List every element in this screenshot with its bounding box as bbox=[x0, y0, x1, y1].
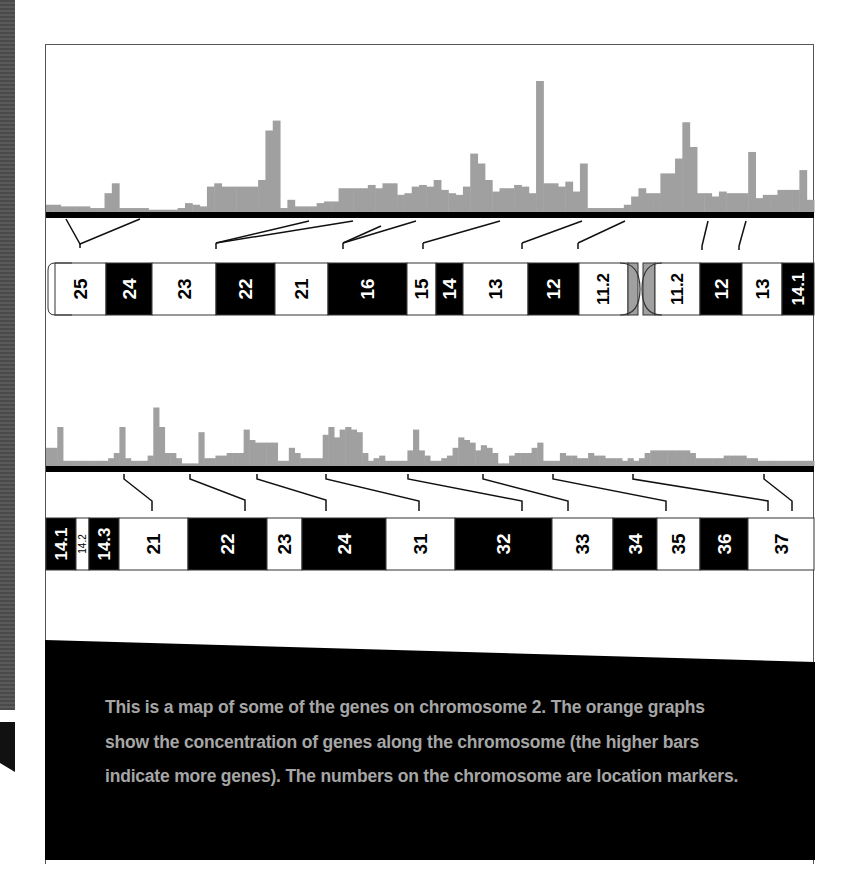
chromosome-band: 36 bbox=[700, 518, 748, 570]
histogram-bar bbox=[486, 448, 492, 466]
histogram-bar bbox=[594, 456, 600, 466]
histogram-bar bbox=[238, 453, 244, 466]
band-label: 14.3 bbox=[95, 527, 114, 560]
histogram-bar bbox=[551, 183, 559, 213]
band-connector-line bbox=[739, 221, 746, 246]
histogram-bar bbox=[807, 200, 815, 213]
chromosome-band: 31 bbox=[386, 518, 455, 570]
chromosome-band: 15 bbox=[407, 263, 436, 315]
histogram-bar bbox=[361, 188, 369, 213]
histogram-bar bbox=[726, 193, 734, 213]
histogram-bar bbox=[193, 463, 199, 466]
band-connector-line bbox=[343, 221, 416, 243]
histogram-bar bbox=[345, 427, 351, 466]
histogram-bar bbox=[515, 453, 521, 466]
chromosome-band: 21 bbox=[275, 263, 328, 315]
histogram-bar bbox=[514, 185, 522, 213]
band-connector-lines-bottom bbox=[124, 474, 792, 511]
histogram-bar bbox=[682, 122, 690, 213]
histogram-bar bbox=[185, 203, 193, 213]
histogram-bar bbox=[362, 453, 368, 466]
band-connector-line bbox=[216, 221, 353, 243]
band-label: 23 bbox=[174, 278, 195, 299]
chromosome-band: 33 bbox=[552, 518, 613, 570]
histogram-bar bbox=[785, 190, 793, 213]
band-connector-line bbox=[522, 221, 582, 243]
histogram-bar bbox=[622, 461, 628, 466]
histogram-bar bbox=[481, 445, 487, 466]
histogram-bar bbox=[236, 187, 244, 213]
chromosome-band: 12 bbox=[528, 263, 579, 315]
histogram-bar bbox=[300, 458, 306, 466]
histogram-bar bbox=[306, 458, 312, 466]
histogram-bar bbox=[97, 461, 103, 466]
histogram-bar bbox=[678, 450, 684, 466]
histogram-bar bbox=[441, 190, 449, 213]
histogram-bar bbox=[153, 408, 159, 467]
band-label: 34 bbox=[625, 533, 646, 555]
histogram-bar bbox=[690, 147, 698, 213]
histogram-bar bbox=[741, 193, 749, 213]
histogram-bar bbox=[803, 461, 809, 466]
histogram-bar bbox=[251, 187, 259, 213]
chromosome-band: 11.2 bbox=[579, 263, 628, 315]
band-connector-lines-top bbox=[66, 219, 746, 250]
histogram-bar bbox=[287, 200, 295, 213]
band-label: 22 bbox=[217, 533, 238, 554]
histogram-bar bbox=[565, 182, 573, 213]
histogram-bar bbox=[729, 456, 735, 466]
histogram-bar bbox=[543, 183, 551, 213]
histogram-bar bbox=[357, 432, 363, 466]
chromosome-band: 16 bbox=[328, 263, 407, 315]
band-connector-line bbox=[702, 221, 708, 246]
band-connector-line bbox=[190, 474, 245, 511]
histogram-bar bbox=[770, 195, 778, 213]
histogram-bar bbox=[114, 453, 120, 466]
histogram-bar bbox=[724, 456, 730, 466]
band-label: 35 bbox=[668, 533, 689, 555]
histogram-bar bbox=[755, 198, 763, 213]
histogram-bar bbox=[390, 183, 398, 213]
histogram-bar bbox=[379, 456, 385, 466]
histogram-bar bbox=[748, 152, 756, 213]
histogram-bar bbox=[470, 443, 476, 466]
histogram-bar bbox=[221, 456, 227, 466]
histogram-bar bbox=[232, 453, 238, 466]
chromosome-band: 21 bbox=[119, 518, 188, 570]
histogram-bar bbox=[577, 458, 583, 466]
chromosome-band: 14.2 bbox=[76, 518, 89, 570]
histogram-bar bbox=[797, 461, 803, 466]
histogram-bar bbox=[204, 458, 210, 466]
histogram-bar bbox=[148, 456, 154, 466]
band-connector-line bbox=[124, 474, 152, 511]
histogram-bar bbox=[507, 188, 515, 213]
chromosome-band: 14.1 bbox=[782, 263, 814, 315]
histogram-bar bbox=[368, 461, 374, 466]
histogram-bar bbox=[283, 461, 289, 466]
histogram-bar bbox=[340, 430, 346, 466]
histogram-bar bbox=[667, 450, 673, 466]
chromosome-band: 22 bbox=[216, 263, 275, 315]
chromosome-band: 37 bbox=[748, 518, 814, 570]
histogram-bar bbox=[509, 456, 515, 466]
histogram-bar bbox=[799, 170, 807, 213]
chromosome-band bbox=[643, 263, 655, 315]
band-label: 37 bbox=[771, 533, 792, 554]
chromosome-band: 11.2 bbox=[655, 263, 700, 315]
histogram-bar bbox=[176, 458, 182, 466]
caption-text: This is a map of some of the genes on ch… bbox=[105, 690, 745, 794]
histogram-bar bbox=[434, 180, 442, 213]
band-label: 24 bbox=[119, 278, 140, 300]
histogram-bar bbox=[650, 450, 656, 466]
band-label: 13 bbox=[752, 278, 773, 299]
histogram-bar bbox=[294, 453, 300, 466]
histogram-bar bbox=[198, 432, 204, 466]
band-label: 33 bbox=[572, 533, 593, 554]
band-label: 13 bbox=[485, 278, 506, 299]
chromosome-band: 25 bbox=[55, 263, 106, 315]
histogram-bar bbox=[673, 450, 679, 466]
histogram-bar bbox=[397, 195, 405, 213]
band-connector-line bbox=[343, 226, 381, 243]
histogram-bar bbox=[382, 183, 390, 213]
histogram-bar bbox=[543, 461, 549, 466]
